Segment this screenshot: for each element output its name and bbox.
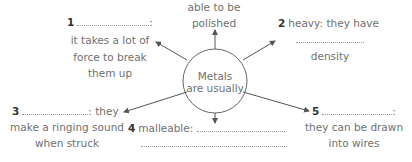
item-3-number: 3 <box>12 105 19 117</box>
item-1-line1: it takes a lot of <box>71 34 150 46</box>
top-label-line2: polished <box>192 17 236 29</box>
center-label-line2: are usually <box>186 82 244 94</box>
item-3-blank[interactable] <box>22 105 88 115</box>
item-5-suffix: : <box>392 105 396 117</box>
item-5-line1: they can be drawn <box>305 121 403 133</box>
item-5-number: 5 <box>312 105 319 117</box>
item-3-line1: make a ringing sound <box>10 121 124 133</box>
item-5-heading: 5: <box>312 105 396 117</box>
item-1-line2: force to break <box>73 51 146 63</box>
item-1-number: 1 <box>67 16 74 28</box>
arrow-3 <box>124 92 187 112</box>
item-4-blank-line2[interactable] <box>141 146 287 147</box>
item-2-prefix: heavy: they have <box>288 17 379 29</box>
center-label-line1: Metals <box>198 70 232 82</box>
item-3-heading: 3: they <box>12 105 119 117</box>
item-5-blank[interactable] <box>322 105 392 115</box>
item-5-line2: into wires <box>329 137 380 149</box>
item-4-heading: 4malleable: <box>128 122 285 134</box>
item-4-number: 4 <box>128 122 135 134</box>
item-2-heading: 2heavy: they have <box>278 17 379 29</box>
item-3-suffix: : they <box>88 105 118 117</box>
item-4-prefix: malleable: <box>138 122 193 134</box>
arrow-5 <box>243 92 309 111</box>
item-3-line2: when struck <box>35 137 99 149</box>
top-label-line1: able to be <box>188 1 241 13</box>
item-4-blank[interactable] <box>197 122 285 132</box>
item-1-suffix: : <box>149 16 153 28</box>
item-2-blank[interactable] <box>296 42 364 43</box>
arrow-1 <box>156 42 187 60</box>
item-2-line1: density <box>311 50 350 62</box>
item-1-heading: 1: <box>67 16 153 28</box>
item-1-line3: them up <box>88 67 132 79</box>
item-2-number: 2 <box>278 17 285 29</box>
arrow-2 <box>243 41 275 60</box>
item-1-blank[interactable] <box>77 16 149 26</box>
